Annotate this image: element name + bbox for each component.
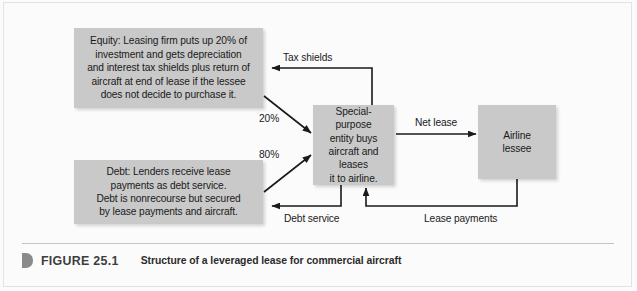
node-debt-label: Debt: Lenders receive lease payments as …	[90, 165, 246, 219]
edge-label-net-lease: Net lease	[415, 117, 457, 128]
edge-tax-shields	[272, 68, 372, 105]
node-equity: Equity: Leasing firm puts up 20% of inve…	[74, 28, 263, 108]
edge-debt-share	[264, 155, 311, 192]
figure-caption: FIGURE 25.1 Structure of a leveraged lea…	[22, 253, 401, 268]
edge-debt-service	[272, 185, 341, 206]
node-spe-label: Special-purpose entity buys aircraft and…	[313, 105, 394, 186]
figure-title: Structure of a leveraged lease for comme…	[141, 255, 402, 266]
figure-container: Equity: Leasing firm puts up 20% of inve…	[0, 0, 637, 291]
caption-divider	[22, 243, 614, 244]
edge-label-debt-service: Debt service	[284, 213, 339, 224]
node-equity-label: Equity: Leasing firm puts up 20% of inve…	[81, 34, 256, 101]
caption-marker-icon	[22, 253, 33, 268]
figure-number: FIGURE 25.1	[41, 254, 119, 268]
edge-label-tax-shields: Tax shields	[283, 52, 332, 63]
node-debt: Debt: Lenders receive lease payments as …	[74, 160, 263, 224]
node-airline-label: Airline lessee	[497, 129, 538, 156]
node-special-purpose-entity: Special-purpose entity buys aircraft and…	[313, 105, 394, 185]
edge-label-debt-share: 80%	[259, 149, 279, 160]
node-airline-lessee: Airline lessee	[478, 105, 556, 179]
diagram-canvas: Equity: Leasing firm puts up 20% of inve…	[0, 0, 637, 291]
edge-label-equity-share: 20%	[259, 113, 279, 124]
edge-label-lease-payments: Lease payments	[424, 213, 497, 224]
